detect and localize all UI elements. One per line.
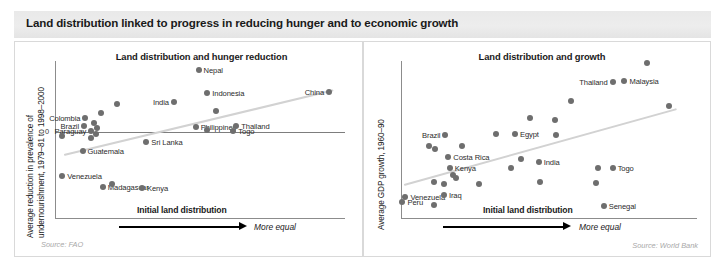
data-point-label: Peru <box>407 198 423 207</box>
y-axis-label-left-line1: Average reduction in prevalence of <box>26 87 37 238</box>
data-point <box>644 60 650 66</box>
data-point <box>453 175 459 181</box>
data-point <box>552 117 558 123</box>
x-axis-label-right: Initial land distribution <box>483 205 573 215</box>
data-point-egypt <box>512 131 518 137</box>
x-axis-line-left <box>55 218 345 219</box>
data-point-togo <box>610 165 616 171</box>
data-point <box>593 180 599 186</box>
data-point <box>459 143 465 149</box>
data-point-colombia <box>82 115 88 121</box>
data-point <box>431 202 437 208</box>
data-point-iraq <box>441 192 447 198</box>
x-axis-label-left: Initial land distribution <box>137 205 227 215</box>
data-point-sri-lanka <box>143 139 149 145</box>
y-axis-label-left: Average reduction in prevalence of under… <box>26 87 47 238</box>
data-point-guatemala <box>80 148 86 154</box>
more-equal-note-left: More equal <box>254 222 296 232</box>
data-point-philippines <box>193 124 199 130</box>
data-point <box>553 132 559 138</box>
data-point-label: Kenya <box>455 164 476 173</box>
data-point <box>204 127 210 133</box>
y-axis-zero-tick: 0 <box>45 127 49 136</box>
data-point <box>666 103 672 109</box>
data-point-nepal <box>196 67 202 73</box>
trend-line <box>404 108 677 186</box>
data-point <box>493 131 499 137</box>
y-axis-label-right: Average GDP growth, 1960–90 <box>377 119 388 230</box>
data-point-label: India <box>544 158 560 167</box>
data-point-togo <box>230 128 236 134</box>
y-axis-label-left-line2: undernourishment, 1979–81 to 1998–2000 <box>37 87 48 238</box>
data-point-label: Nepal <box>204 65 223 74</box>
data-point-label: Kenya <box>147 184 168 193</box>
data-point <box>595 165 601 171</box>
data-point <box>537 179 543 185</box>
data-point-label: Thailand <box>579 77 607 86</box>
data-point-brazil <box>442 132 448 138</box>
chart-panel-right: Land distribution and growth Average GDP… <box>363 41 711 257</box>
more-equal-note-right: More equal <box>579 222 621 232</box>
data-point <box>114 101 120 107</box>
data-point <box>527 115 533 121</box>
data-point-label: Egypt <box>520 129 539 138</box>
data-point <box>432 146 438 152</box>
data-point-label: Venezuela <box>67 172 102 181</box>
data-point <box>476 181 482 187</box>
data-point-label: Iraq <box>449 191 462 200</box>
data-point <box>109 181 115 187</box>
data-point-label: Indonesia <box>212 89 244 98</box>
data-point-label: India <box>153 98 169 107</box>
data-point-peru <box>399 199 405 205</box>
more-equal-arrow-left <box>119 222 247 231</box>
data-point-venezuela <box>59 173 65 179</box>
data-point-label: Costa Rica <box>453 153 489 162</box>
source-note-right: Source: World Bank <box>632 241 698 250</box>
data-point-china <box>326 89 332 95</box>
source-note-left: Source: FAO <box>41 240 83 249</box>
data-point-label: Malaysia <box>629 76 658 85</box>
data-point-label: China <box>305 87 324 96</box>
data-point <box>213 108 219 114</box>
data-point-india <box>536 159 542 165</box>
scatter-plot-right: ThailandMalaysiaEgyptBrazilCosta RicaInd… <box>401 61 697 219</box>
data-point-label: Togo <box>238 127 254 136</box>
data-point-label: Guatemala <box>88 147 124 156</box>
figure-root: Land distribution linked to progress in … <box>0 0 725 274</box>
data-point-thailand <box>610 79 616 85</box>
data-point <box>518 156 524 162</box>
data-point <box>508 165 514 171</box>
data-point-madagascar <box>100 184 106 190</box>
data-point <box>431 179 437 185</box>
data-point <box>98 110 104 116</box>
data-point <box>88 135 94 141</box>
data-point-indonesia <box>204 90 210 96</box>
data-point-label: Togo <box>618 163 634 172</box>
data-point <box>441 181 447 187</box>
data-point-india <box>171 99 177 105</box>
y-axis-line-left <box>55 61 56 219</box>
data-point <box>568 98 574 104</box>
data-point-label: Senegal <box>609 201 636 210</box>
data-point-costa-rica <box>445 154 451 160</box>
data-point <box>59 133 65 139</box>
more-equal-arrow-right <box>443 222 571 231</box>
data-point-label: Sri Lanka <box>151 138 182 147</box>
chart-panel-left: Land distribution and hunger reduction A… <box>14 41 363 257</box>
data-point-malaysia <box>621 78 627 84</box>
data-point-label: Brazil <box>422 131 440 140</box>
data-point-senegal <box>601 203 607 209</box>
figure-title-bar: Land distribution linked to progress in … <box>14 11 711 38</box>
scatter-plot-left: NepalChinaIndonesiaIndiaColombiaBrazilPa… <box>55 61 345 219</box>
x-axis-line-right <box>401 218 697 219</box>
page-title: Land distribution linked to progress in … <box>26 16 458 29</box>
